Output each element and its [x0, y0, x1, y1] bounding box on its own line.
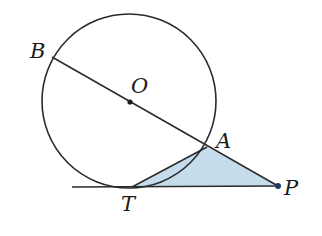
tangent-line-tp — [72, 186, 278, 187]
geometry-diagram: B O A T P — [0, 0, 322, 236]
shaded-triangle-tap — [132, 147, 278, 187]
label-t: T — [121, 192, 137, 216]
label-p: P — [283, 176, 299, 200]
label-o: O — [131, 74, 148, 98]
secant-line-bp — [52, 57, 278, 186]
label-a: A — [214, 129, 231, 153]
center-point-o — [127, 99, 132, 104]
point-p — [275, 183, 281, 189]
label-b: B — [29, 39, 45, 63]
